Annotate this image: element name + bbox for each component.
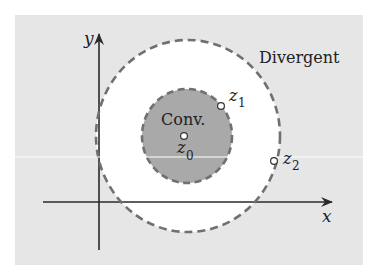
convergence-diagram: y x Divergent Conv. z 0 z 1 z 2 (0, 0, 377, 274)
z0-subscript: 0 (186, 149, 194, 163)
point-z2-marker (271, 158, 278, 165)
point-z1-marker (218, 103, 225, 110)
z1-subscript: 1 (238, 96, 246, 110)
z0-symbol: z (176, 138, 186, 157)
z1-symbol: z (228, 86, 238, 105)
x-axis-label: x (322, 206, 332, 226)
z2-symbol: z (282, 149, 292, 168)
convergent-region-label: Conv. (161, 110, 205, 129)
divergent-region-label: Divergent (259, 48, 340, 67)
y-axis-label: y (83, 28, 94, 48)
z2-subscript: 2 (292, 159, 300, 173)
